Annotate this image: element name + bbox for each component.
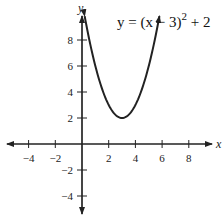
y-tick-label: 2 — [68, 112, 74, 124]
y-tick-label: 4 — [68, 86, 74, 98]
y-axis-label: y — [77, 1, 84, 15]
x-tick-label: 4 — [133, 152, 139, 164]
equation-label: y = (x − 3)2 + 2 — [117, 10, 210, 31]
parabola-curve — [85, 16, 160, 118]
axes — [7, 16, 212, 214]
equation-tail: + 2 — [187, 14, 210, 30]
y-tick-label: 8 — [68, 34, 74, 46]
y-tick-label: −2 — [61, 164, 73, 176]
x-tick-label: 6 — [159, 152, 165, 164]
ticks: −4−22468−4−22468 — [23, 34, 192, 202]
equation-base: y = (x − 3) — [117, 14, 181, 31]
x-tick-label: 8 — [186, 152, 192, 164]
x-tick-label: 2 — [106, 152, 112, 164]
parabola-graph: −4−22468−4−22468 x y y = (x − 3)2 + 2 — [0, 0, 223, 218]
x-tick-label: −4 — [23, 152, 35, 164]
y-tick-label: −4 — [61, 190, 73, 202]
y-tick-label: 6 — [68, 60, 74, 72]
x-axis-label: x — [215, 137, 222, 151]
x-tick-label: −2 — [49, 152, 61, 164]
